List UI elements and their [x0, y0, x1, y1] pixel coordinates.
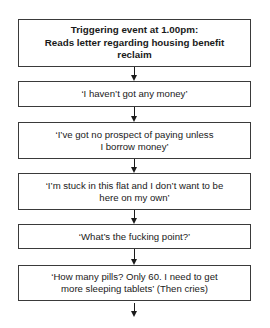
- flow-step-thought-4: ‘What’s the fucking point?’: [18, 224, 251, 249]
- thought-text: ‘How many pills? Only 60. I need to get …: [49, 271, 220, 295]
- thought-text: ‘I’m stuck in this flat and I don’t want…: [41, 180, 228, 204]
- thought-text: ‘I’ve got no prospect of paying unless I…: [53, 129, 216, 153]
- trigger-event-heading: Triggering event at 1.00pm:: [71, 24, 198, 37]
- trigger-event-description: Reads letter regarding housing benefit r…: [29, 37, 240, 62]
- down-arrow-icon: [134, 303, 136, 317]
- down-arrow-icon: [134, 107, 136, 122]
- thought-text: ‘What’s the fucking point?’: [79, 231, 190, 243]
- down-arrow-icon: [134, 249, 136, 265]
- flow-step-thought-5: ‘How many pills? Only 60. I need to get …: [18, 265, 251, 301]
- flow-step-trigger-event: Triggering event at 1.00pm: Reads letter…: [18, 19, 251, 67]
- flow-step-thought-2: ‘I’ve got no prospect of paying unless I…: [18, 122, 251, 159]
- down-arrow-icon: [134, 210, 136, 224]
- down-arrow-icon: [134, 159, 136, 173]
- flow-step-thought-1: ‘I haven’t got any money’: [18, 81, 251, 107]
- thought-text: ‘I haven’t got any money’: [81, 88, 187, 100]
- down-arrow-icon: [134, 67, 136, 81]
- flow-step-thought-3: ‘I’m stuck in this flat and I don’t want…: [18, 173, 251, 210]
